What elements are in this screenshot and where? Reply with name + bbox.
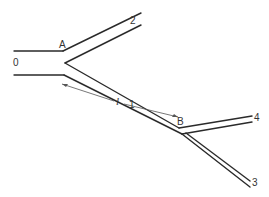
- junction-b-label: B: [177, 117, 184, 127]
- pipe-2-label: 2: [130, 16, 136, 26]
- pipe-4-label: 4: [254, 113, 260, 123]
- length-dimension-arrow: [62, 84, 178, 117]
- pipe-3-label: 3: [252, 178, 258, 188]
- junction-a-label: A: [59, 40, 66, 50]
- pipe-3-top-wall: [186, 133, 250, 181]
- pipe-4-top-wall: [179, 116, 252, 128]
- length-label: l: [116, 96, 119, 106]
- pipe-3-bottom-wall: [182, 134, 250, 187]
- pipe-4-bottom-wall: [182, 122, 252, 134]
- pipe-0-label: 0: [13, 58, 19, 68]
- pipe-1-bottom-wall: [64, 75, 182, 134]
- pipe-1-label: 1: [129, 100, 135, 110]
- pipe-1-top-wall: [65, 63, 179, 128]
